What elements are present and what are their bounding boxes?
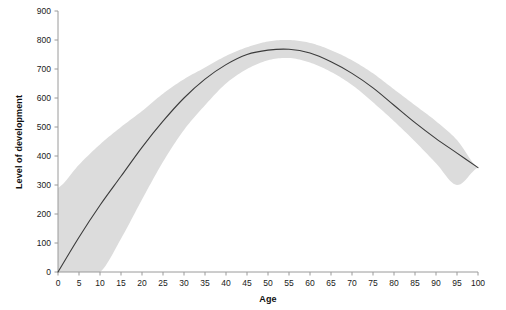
x-tick-label: 20 — [137, 279, 146, 288]
x-tick-label: 55 — [284, 279, 293, 288]
x-tick-label: 50 — [263, 279, 272, 288]
y-tick-label: 100 — [0, 239, 51, 248]
y-tick-label: 200 — [0, 210, 51, 219]
x-tick-label: 95 — [452, 279, 461, 288]
y-tick-label: 0 — [0, 268, 51, 277]
y-axis-title: Level of development — [14, 94, 24, 188]
y-tick-label: 500 — [0, 123, 51, 132]
x-tick-label: 45 — [242, 279, 251, 288]
x-tick-label: 5 — [77, 279, 82, 288]
y-tick-label: 300 — [0, 181, 51, 190]
x-tick-label: 30 — [179, 279, 188, 288]
x-tick-label: 65 — [326, 279, 335, 288]
x-tick-label: 85 — [410, 279, 419, 288]
y-tick-label: 800 — [0, 36, 51, 45]
x-tick-label: 25 — [158, 279, 167, 288]
y-tick-label: 400 — [0, 152, 51, 161]
x-tick-label: 15 — [116, 279, 125, 288]
y-tick-label: 900 — [0, 7, 51, 16]
chart-figure: 0100200300400500600700800900 05101520253… — [0, 0, 506, 310]
confidence-band — [58, 40, 478, 272]
x-tick-label: 10 — [95, 279, 104, 288]
x-tick-label: 90 — [431, 279, 440, 288]
x-axis-title: Age — [259, 294, 276, 304]
x-tick-label: 0 — [56, 279, 61, 288]
chart-plot-area — [0, 0, 506, 310]
x-tick-label: 40 — [221, 279, 230, 288]
x-tick-label: 60 — [305, 279, 314, 288]
x-tick-label: 80 — [389, 279, 398, 288]
x-tick-label: 100 — [471, 279, 485, 288]
y-tick-label: 700 — [0, 65, 51, 74]
x-tick-label: 35 — [200, 279, 209, 288]
y-tick-label: 600 — [0, 94, 51, 103]
x-tick-label: 70 — [347, 279, 356, 288]
x-tick-label: 75 — [368, 279, 377, 288]
